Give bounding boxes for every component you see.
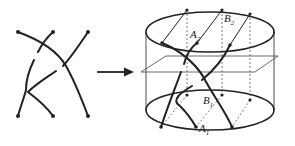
- strand-3: [28, 32, 88, 116]
- cylinder-endpoints: [159, 8, 251, 128]
- label-a2: A2: [189, 28, 201, 43]
- label-b1: B1: [203, 94, 213, 109]
- arrow-right-icon: [97, 68, 134, 77]
- top-ellipse: [146, 12, 274, 52]
- bottom-ellipse: [146, 90, 274, 130]
- cutting-plane: [141, 56, 278, 72]
- label-a1: A1: [198, 122, 209, 137]
- label-b2: B2: [224, 12, 235, 27]
- strand-2: [18, 32, 53, 116]
- dotted-projections: [161, 10, 250, 127]
- left-braid: [18, 32, 88, 116]
- diagram-canvas: A2 B2 B1 A1: [0, 0, 295, 146]
